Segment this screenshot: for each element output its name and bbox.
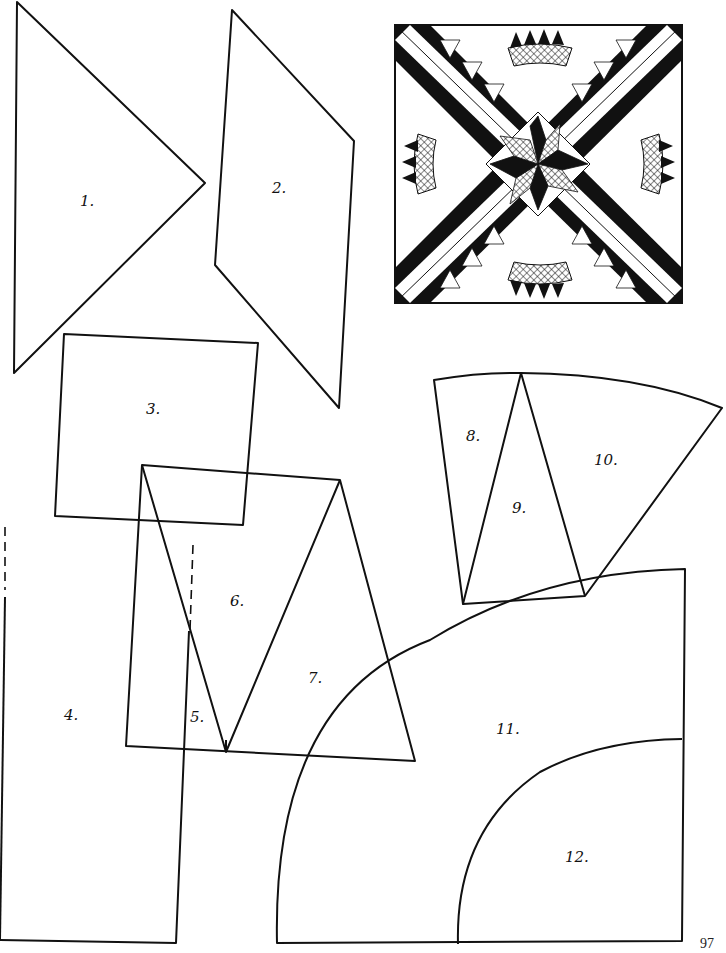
piece-12: 12. [458,739,682,944]
piece-1-label: 1. [80,192,94,210]
piece-7: 7. [308,669,322,687]
piece-8-label: 8. [466,427,480,445]
piece-3-label: 3. [146,400,160,418]
piece-10: 10. [594,451,618,469]
piece-10-label: 10. [594,451,618,469]
piece-9-label: 9. [512,499,526,517]
piece-6: 6. [126,465,415,761]
piece-3: 3. [55,334,258,525]
fold-line-5 [190,545,193,630]
piece-12-label: 12. [565,848,589,866]
pattern-page: 1. 2. 3. 4. 5. 6. 7. 8. 9. 10. [0,0,726,953]
piece-6-label: 6. [230,592,244,610]
page-number: 97 [700,936,714,951]
piece-11-label: 11. [496,720,520,738]
piece-11: 11. [277,569,685,943]
piece-4: 4. [0,527,189,943]
quilt-block-preview [395,25,682,303]
piece-2-label: 2. [271,179,286,197]
piece-2: 2. [215,10,354,408]
piece-7-label: 7. [308,669,322,687]
piece-4-label: 4. [63,706,78,724]
piece-5-label: 5. [190,708,204,726]
piece-1: 1. [14,2,205,373]
piece-9: 9. [512,499,526,517]
